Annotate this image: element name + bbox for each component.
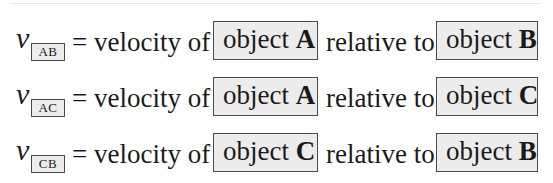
object-letter: A [296, 24, 316, 54]
velocity-symbol: v [16, 79, 29, 109]
scan-artifact-line [10, 3, 540, 4]
subscript-box: CB [31, 155, 65, 173]
relative-to-label: relative to [326, 83, 435, 113]
object-letter: B [519, 24, 537, 54]
velocity-symbol: v [16, 23, 29, 53]
reference-object-box: object B [436, 133, 538, 172]
object-word: object [223, 24, 289, 54]
equals-velocity-of-label: = velocity of [72, 139, 210, 169]
equals-velocity-of-label: = velocity of [72, 27, 210, 57]
velocity-symbol: v [16, 135, 29, 165]
object-word: object [446, 80, 512, 110]
equals-velocity-of-label: = velocity of [72, 83, 210, 113]
relative-to-label: relative to [326, 139, 435, 169]
subject-object-box: object C [213, 133, 318, 172]
subscript-box: AB [31, 43, 65, 61]
object-word: object [223, 80, 289, 110]
object-word: object [446, 136, 512, 166]
subscript-box: AC [31, 99, 65, 117]
object-letter: A [296, 80, 316, 110]
subject-object-box: object A [213, 77, 318, 116]
relative-velocity-row-ab: v AB = velocity of object A relative to … [0, 21, 553, 61]
subject-object-box: object A [213, 21, 318, 60]
reference-object-box: object C [436, 77, 538, 116]
relative-to-label: relative to [326, 27, 435, 57]
object-letter: C [519, 80, 539, 110]
object-letter: C [296, 136, 316, 166]
object-word: object [223, 136, 289, 166]
relative-velocity-row-ac: v AC = velocity of object A relative to … [0, 77, 553, 117]
reference-object-box: object B [436, 21, 538, 60]
object-letter: B [519, 136, 537, 166]
relative-velocity-row-cb: v CB = velocity of object C relative to … [0, 133, 553, 173]
object-word: object [446, 24, 512, 54]
